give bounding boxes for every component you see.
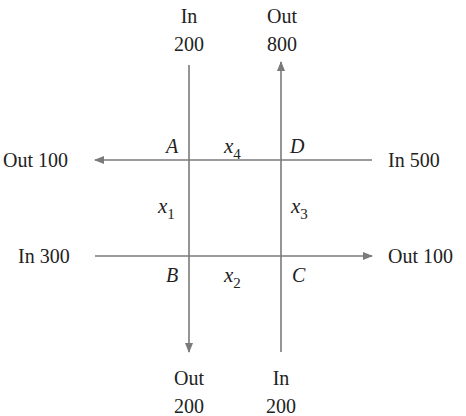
var-sub: 2	[233, 275, 241, 291]
variable-x4: x4	[224, 135, 241, 165]
flow-direction: Out	[174, 364, 204, 392]
flow-right-upper-label: In 500	[388, 146, 440, 174]
flow-value: 200	[174, 392, 204, 416]
flow-top-right-label: Out 800	[267, 2, 297, 58]
flow-value: 200	[266, 392, 296, 416]
flow-direction: In	[174, 2, 204, 30]
var-sub: 4	[233, 146, 241, 162]
var-base: x	[224, 134, 233, 158]
node-b: B	[166, 264, 178, 286]
flow-value: 200	[174, 30, 204, 58]
network-lines	[0, 0, 466, 416]
flow-top-left-label: In 200	[174, 2, 204, 58]
var-base: x	[224, 263, 233, 287]
node-a: A	[166, 135, 178, 157]
flow-value: 800	[267, 30, 297, 58]
variable-x2: x2	[224, 264, 241, 294]
variable-x1: x1	[158, 195, 175, 225]
node-d: D	[290, 135, 304, 157]
flow-direction: Out	[267, 2, 297, 30]
var-base: x	[291, 194, 300, 218]
var-sub: 1	[167, 206, 175, 222]
flow-left-lower-label: In 300	[18, 242, 70, 270]
node-c: C	[292, 264, 305, 286]
var-base: x	[158, 194, 167, 218]
var-sub: 3	[300, 206, 308, 222]
flow-right-lower-label: Out 100	[388, 242, 453, 270]
flow-left-upper-label: Out 100	[3, 146, 68, 174]
variable-x3: x3	[291, 195, 308, 225]
flow-bottom-right-label: In 200	[266, 364, 296, 416]
flow-direction: In	[266, 364, 296, 392]
flow-bottom-left-label: Out 200	[174, 364, 204, 416]
